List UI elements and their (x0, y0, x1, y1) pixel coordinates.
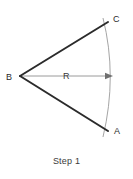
label-point-c: C (113, 14, 120, 24)
label-vertex-b: B (6, 72, 12, 82)
radius-arrowhead-icon (105, 73, 113, 79)
ray-b-to-a (20, 76, 108, 131)
figure-caption: Step 1 (0, 156, 133, 166)
label-point-a: A (114, 126, 120, 136)
figure-container: B C A R Step 1 (0, 0, 133, 179)
angle-arc-diagram: B C A R (0, 0, 133, 179)
label-radius: R (63, 71, 70, 81)
ray-b-to-c (20, 22, 108, 76)
